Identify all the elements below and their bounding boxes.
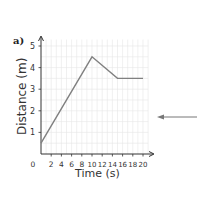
y-tick-label: 3 (30, 85, 35, 94)
arrow-left-icon (157, 115, 164, 120)
axes (39, 36, 155, 157)
x-tick-label: 4 (59, 160, 64, 169)
x-tick-label: 6 (69, 160, 74, 169)
y-tick-label: 1 (30, 128, 35, 137)
part-label: a) (13, 35, 24, 46)
x-tick-label: 20 (139, 161, 148, 169)
x-axis-label: Time (s) (75, 167, 120, 180)
y-tick-label: 5 (30, 42, 35, 51)
grid (41, 40, 148, 154)
y-axis-label: Distance (m) (15, 75, 29, 135)
x-tick-label: 18 (128, 161, 137, 169)
x-tick-label: 2 (49, 160, 54, 169)
pointer-arrow (157, 115, 197, 120)
x-tick-label: 0 (31, 160, 36, 169)
y-tick-label: 2 (30, 107, 35, 116)
y-tick-label: 4 (30, 64, 35, 73)
